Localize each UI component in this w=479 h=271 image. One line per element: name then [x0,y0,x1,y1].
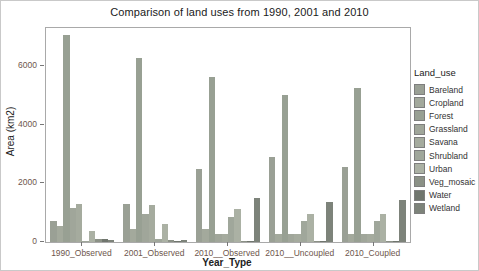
legend-swatch-urban [414,163,425,174]
y-tick-label: 6000 [0,61,37,69]
legend-swatch-veg_mosaic [414,176,425,187]
plot-panel [45,27,411,243]
bar-bareland-2010__uncoupled [269,157,275,242]
bar-urban-2010__uncoupled [307,214,313,242]
x-tick-mark [373,242,374,246]
legend-item-bareland: Bareland [414,83,478,96]
y-tick-mark [40,182,44,183]
legend-swatch-savana [414,137,425,148]
legend-swatch-grassland [414,124,425,135]
bar-forest-2010__uncoupled [282,95,288,242]
x-axis-title: Year_Type [45,257,409,268]
legend-label: Forest [429,111,453,121]
bar-wetland-2010_coupled [399,200,405,242]
x-tick-mark [300,242,301,246]
legend-swatch-shrubland [414,150,425,161]
legend-item-water: Water [414,189,478,202]
y-axis-title: Area (km2) [5,97,16,167]
legend: Land_use BarelandCroplandForestGrassland… [414,67,478,215]
legend-swatch-wetland [414,203,425,214]
bar-wetland-2010__uncoupled [326,202,332,242]
legend-item-wetland: Wetland [414,202,478,215]
y-tick-label: 4000 [0,120,37,128]
x-tick-mark [227,242,228,246]
legend-item-urban: Urban [414,162,478,175]
legend-label: Water [429,190,451,200]
legend-swatch-water [414,190,425,201]
legend-label: Bareland [429,85,463,95]
y-tick-mark [40,241,44,242]
legend-title: Land_use [414,67,478,78]
bar-urban-2010__observed [234,209,240,242]
legend-label: Wetland [429,203,460,213]
bar-wetland-2001_observed [181,240,187,242]
legend-label: Shrubland [429,151,468,161]
bar-forest-2010__observed [209,77,215,242]
legend-swatch-cropland [414,97,425,108]
bar-savana-1990_observed [76,204,82,242]
legend-label: Savana [429,137,458,147]
legend-item-grassland: Grassland [414,123,478,136]
x-tick-mark [154,242,155,246]
legend-item-shrubland: Shrubland [414,149,478,162]
y-tick-mark [40,65,44,66]
legend-item-savana: Savana [414,136,478,149]
bar-forest-2010_coupled [354,88,360,242]
legend-item-forest: Forest [414,109,478,122]
bar-bareland-2010_coupled [342,167,348,242]
legend-item-cropland: Cropland [414,96,478,109]
bar-savana-2001_observed [149,205,155,242]
bar-wetland-1990_observed [108,240,114,242]
legend-items: BarelandCroplandForestGrasslandSavanaShr… [414,83,478,215]
chart-title: Comparison of land uses from 1990, 2001 … [1,6,478,18]
y-tick-mark [40,124,44,125]
x-tick-label-2010_coupled: 2010_Coupled [318,248,428,258]
legend-label: Grassland [429,124,468,134]
land-use-bar-chart: Comparison of land uses from 1990, 2001 … [0,0,479,271]
legend-swatch-bareland [414,84,425,95]
legend-label: Cropland [429,98,464,108]
y-tick-label: 0 [0,237,37,245]
legend-label: Veg_mosaic [429,177,475,187]
bar-wetland-2010__observed [254,198,260,242]
bar-urban-2010_coupled [380,214,386,242]
legend-item-veg_mosaic: Veg_mosaic [414,175,478,188]
legend-swatch-forest [414,110,425,121]
y-tick-label: 2000 [0,178,37,186]
x-tick-mark [81,242,82,246]
legend-label: Urban [429,164,452,174]
